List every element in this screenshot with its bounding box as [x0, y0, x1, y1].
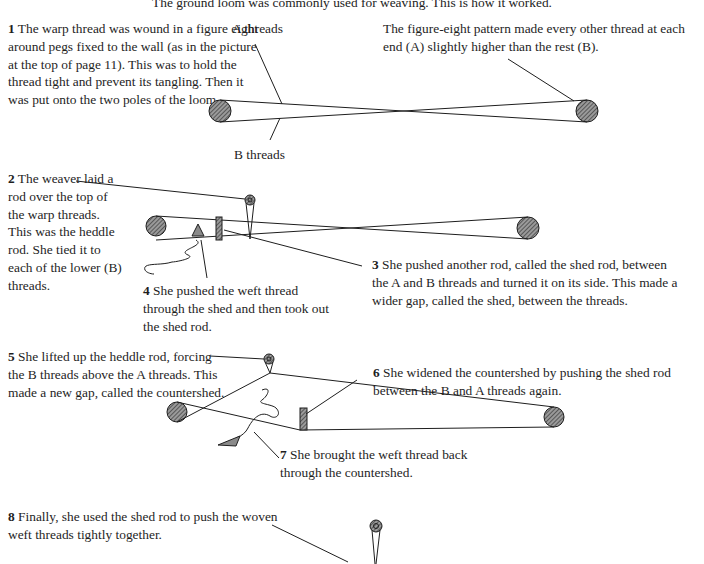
- diagram-1-warp: [209, 44, 598, 140]
- diagram-2-shed: [76, 181, 539, 278]
- diagram-4-beating: [272, 520, 382, 564]
- diagram-3-countershed: [167, 354, 564, 458]
- loom-diagrams: [0, 0, 704, 564]
